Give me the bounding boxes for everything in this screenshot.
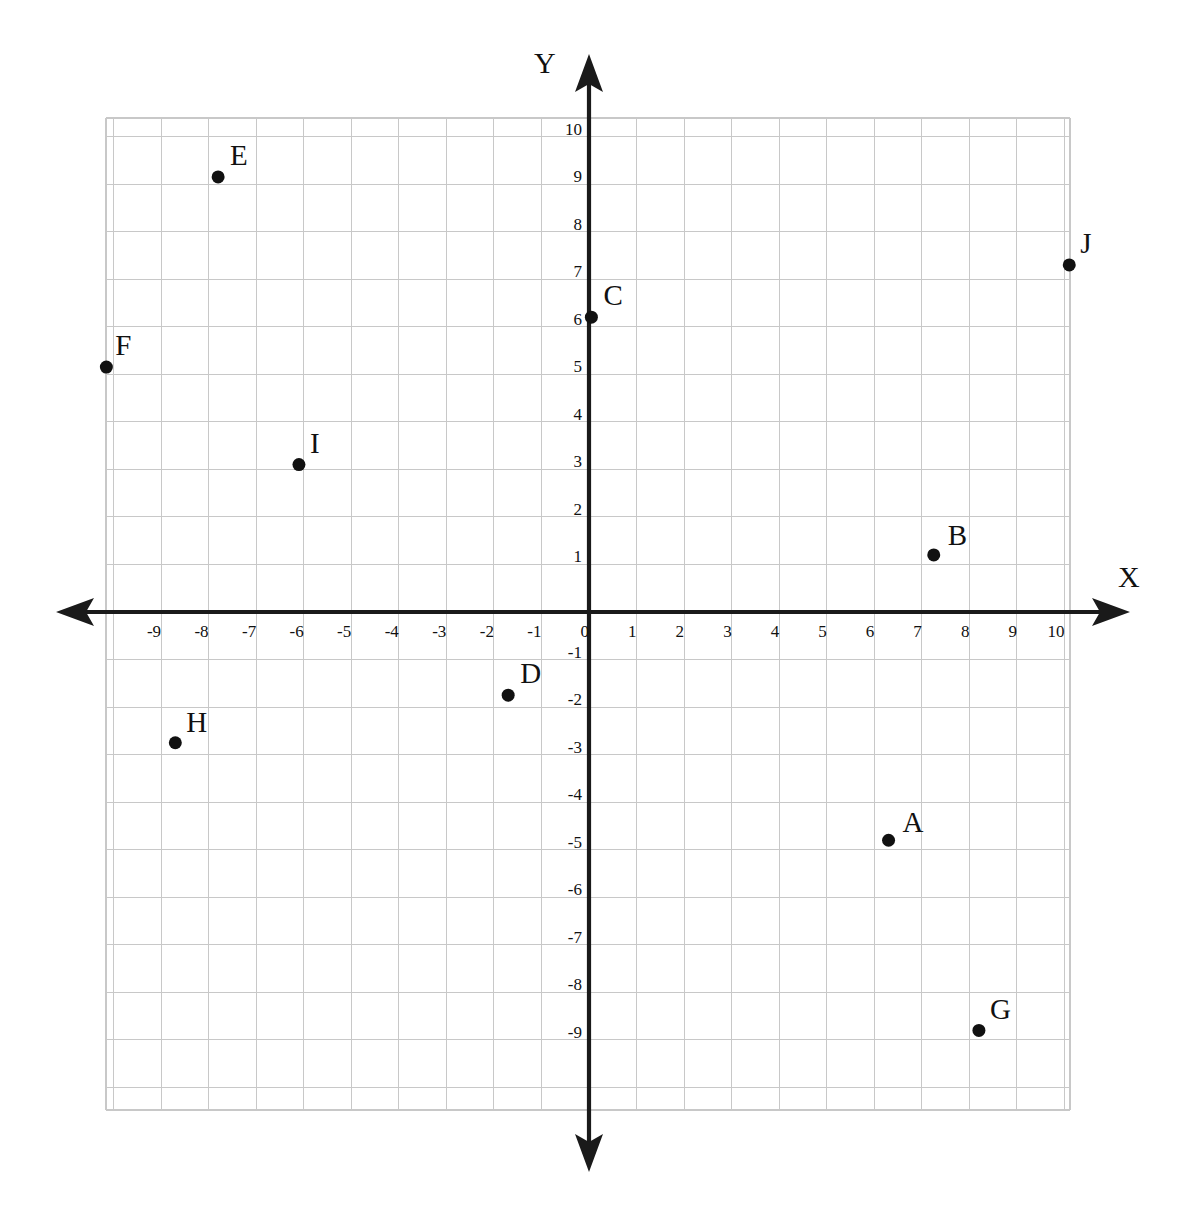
data-point-f <box>100 361 113 374</box>
y-tick-label: 8 <box>553 216 582 233</box>
data-point-b <box>927 548 940 561</box>
y-tick-label: 4 <box>553 406 582 423</box>
point-label-c: C <box>603 281 622 310</box>
x-tick-label: -8 <box>186 623 209 640</box>
y-tick-label: 1 <box>553 548 582 565</box>
x-tick-label: -6 <box>281 623 304 640</box>
y-tick-label: 6 <box>553 311 582 328</box>
x-tick-label: -2 <box>471 623 494 640</box>
x-axis-label: X <box>1118 562 1140 592</box>
x-tick-label: 9 <box>994 623 1017 640</box>
data-point-e <box>212 170 225 183</box>
data-point-g <box>972 1024 985 1037</box>
y-tick-label: 9 <box>553 168 582 185</box>
x-tick-label: 7 <box>899 623 922 640</box>
x-tick-label: 1 <box>614 623 637 640</box>
point-label-i: I <box>310 429 320 458</box>
y-tick-label: 3 <box>553 453 582 470</box>
x-tick-label: 4 <box>756 623 779 640</box>
x-tick-label: 5 <box>804 623 827 640</box>
y-tick-label: -9 <box>553 1024 582 1041</box>
y-tick-label: -8 <box>553 976 582 993</box>
data-point-i <box>292 458 305 471</box>
x-tick-label: -9 <box>138 623 161 640</box>
x-tick-label: -3 <box>423 623 446 640</box>
y-tick-label: -4 <box>553 786 582 803</box>
y-tick-label: -3 <box>553 739 582 756</box>
point-label-f: F <box>115 331 131 360</box>
point-label-j: J <box>1080 229 1091 258</box>
x-tick-label: 3 <box>709 623 732 640</box>
x-tick-label: -7 <box>233 623 256 640</box>
x-tick-label: 6 <box>851 623 874 640</box>
y-tick-label: -5 <box>553 834 582 851</box>
point-label-g: G <box>990 995 1011 1024</box>
plot-svg <box>0 0 1198 1229</box>
y-tick-label: -6 <box>553 881 582 898</box>
data-point-h <box>169 736 182 749</box>
x-tick-label: -1 <box>518 623 541 640</box>
y-tick-label: 5 <box>553 358 582 375</box>
x-tick-label: 8 <box>946 623 969 640</box>
y-tick-label: 7 <box>553 263 582 280</box>
y-tick-label: 2 <box>553 501 582 518</box>
point-label-a: A <box>903 808 924 837</box>
point-label-h: H <box>186 708 207 737</box>
y-tick-label: -1 <box>553 644 582 661</box>
x-tick-label: 10 <box>1042 623 1065 640</box>
y-axis-label: Y <box>534 48 556 78</box>
point-label-d: D <box>520 659 541 688</box>
coordinate-plane-figure: -9-8-7-6-5-4-3-2-10123456789101098765432… <box>0 0 1198 1229</box>
y-tick-label: -2 <box>553 691 582 708</box>
y-tick-label: 10 <box>553 121 582 138</box>
data-point-j <box>1063 258 1076 271</box>
x-tick-label: -4 <box>376 623 399 640</box>
y-tick-label: -7 <box>553 929 582 946</box>
data-point-a <box>882 834 895 847</box>
x-tick-label: 2 <box>661 623 684 640</box>
point-label-b: B <box>948 521 967 550</box>
x-tick-label: 0 <box>571 623 589 640</box>
data-point-d <box>502 689 515 702</box>
point-label-e: E <box>230 141 248 170</box>
data-point-c <box>585 311 598 324</box>
x-tick-label: -5 <box>328 623 351 640</box>
